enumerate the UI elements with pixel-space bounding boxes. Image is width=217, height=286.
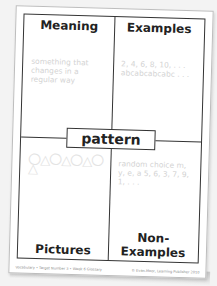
quadrant-non-examples: random choice m, y, e, a 5, 6, 3, 7, 9, … (108, 139, 201, 263)
quadrant-pictures: 〇△〇△〇△〇△ Pictures (18, 136, 111, 260)
quadrant-meaning: Meaning something that changes in a regu… (21, 15, 114, 139)
center-word: pattern (66, 127, 156, 149)
quadrant-examples: Examples 2, 4, 6, 8, 10, . . . abcabcabc… (111, 17, 204, 141)
pictures-drawing: 〇△〇△〇△〇△ (28, 154, 104, 174)
non-examples-title: Non-Examples (108, 230, 199, 261)
meaning-text: something that changes in a regular way (31, 57, 108, 86)
pictures-title: Pictures (18, 241, 108, 258)
footer-right: © Evan-Moor, Learning Publisher 2010 (131, 269, 199, 275)
non-examples-text: random choice m, y, e, a 5, 6, 3, 7, 9, … (118, 159, 195, 188)
frayer-model-grid: Meaning something that changes in a regu… (17, 14, 206, 264)
examples-title: Examples (114, 20, 204, 37)
footer-left: Vocabulary • Target Number 3 • Week 6 Gl… (15, 265, 102, 271)
examples-text: 2, 4, 6, 8, 10, . . . abcabcabcabc . . . (121, 59, 197, 79)
meaning-title: Meaning (24, 18, 114, 35)
vocabulary-card: Meaning something that changes in a regu… (8, 5, 213, 278)
